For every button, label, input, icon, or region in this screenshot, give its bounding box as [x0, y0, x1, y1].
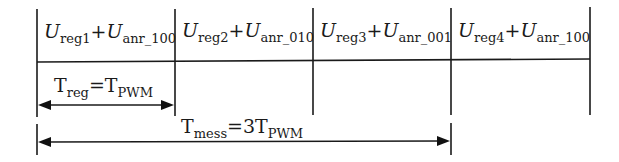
slot-label-3: Ureg3+Uanr_001 — [320, 19, 452, 45]
arrowhead-left-icon — [38, 100, 51, 110]
slot-label-2: Ureg2+Uanr_010 — [182, 19, 314, 45]
arrowhead-right-icon — [161, 100, 174, 110]
t-mess-label: Tmess=3TPWM — [181, 115, 303, 141]
arrowhead-right-icon — [437, 136, 450, 146]
t-reg-label: Treg=TPWM — [54, 74, 153, 100]
t-mess-arrow — [38, 136, 450, 147]
t-reg-arrow — [38, 100, 174, 110]
slot-label-1: Ureg1+Uanr_100 — [44, 20, 176, 46]
arrowhead-left-icon — [38, 137, 51, 147]
slot-label-4: Ureg4+Uanr_100 — [458, 19, 590, 45]
timing-diagram: Ureg1+Uanr_100 Ureg2+Uanr_010 Ureg3+Uanr… — [0, 0, 619, 162]
